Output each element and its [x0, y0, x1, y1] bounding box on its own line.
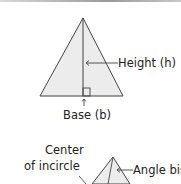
height-label: Height (h) [118, 56, 176, 70]
triangle [40, 18, 123, 96]
center-label-line1: Center [45, 143, 84, 157]
incircle-triangle [92, 157, 130, 184]
base-label: Base (b) [63, 108, 111, 122]
triangle-incircle-figure: Center of incircle Angle bisector [24, 143, 181, 184]
bisector-label: Angle bisector [133, 163, 181, 177]
triangle-height-figure: Height (h) Base (b) [40, 18, 176, 122]
center-label-line2: of incircle [24, 159, 80, 173]
geometry-diagram: Height (h) Base (b) Center of incircle A… [0, 0, 181, 184]
center-pointer-line [79, 176, 86, 184]
